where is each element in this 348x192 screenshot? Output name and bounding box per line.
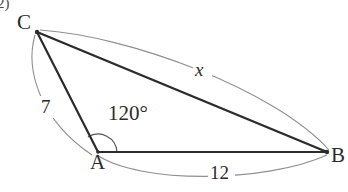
vertex-label-b: B	[331, 145, 345, 166]
vertex-label-a: A	[90, 152, 105, 173]
measure-arc-cb	[40, 30, 329, 150]
figure-canvas: 2) C A B 7 12 x 120°	[0, 0, 348, 192]
side-length-label-ab: 12	[210, 163, 229, 182]
problem-number-label: 2)	[0, 0, 10, 11]
angle-measure-label-a: 120°	[108, 103, 148, 124]
side-length-label-cb: x	[195, 60, 203, 79]
measure-arc-ca	[32, 35, 92, 155]
vertex-dot-c	[35, 30, 39, 34]
vertex-dot-b	[325, 150, 329, 154]
vertex-label-c: C	[17, 12, 31, 33]
segment-cb	[37, 32, 327, 152]
side-length-label-ca: 7	[41, 97, 51, 116]
segment-ca	[37, 32, 98, 152]
